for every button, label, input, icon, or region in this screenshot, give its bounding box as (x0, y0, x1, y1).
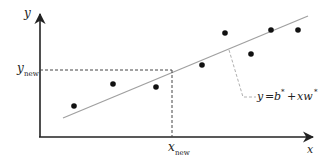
equation-label: y = b * + xw * (256, 88, 318, 103)
svg-text:y: y (16, 61, 24, 75)
regression-diagram: y x y new x new y = b * + xw * (0, 0, 327, 162)
y-axis-label: y (23, 6, 31, 20)
data-point (295, 27, 301, 33)
svg-text:new: new (175, 149, 190, 157)
svg-text:x: x (168, 140, 175, 154)
svg-text:b: b (274, 90, 281, 103)
svg-text:y: y (256, 90, 264, 103)
data-point (199, 62, 205, 68)
svg-text:+: + (287, 90, 296, 103)
data-point (153, 84, 159, 90)
svg-text:xw: xw (297, 90, 313, 103)
svg-text:=: = (265, 90, 274, 103)
x-new-label: x new (168, 140, 190, 157)
y-new-label: y new (16, 61, 39, 78)
data-point (71, 103, 77, 109)
data-point (222, 30, 228, 36)
equation-leader (229, 50, 256, 97)
data-point (110, 81, 116, 87)
svg-text:*: * (281, 88, 285, 96)
x-axis-label: x (307, 143, 314, 156)
data-point (248, 51, 254, 57)
svg-text:new: new (24, 70, 39, 78)
data-point (268, 27, 274, 33)
svg-text:*: * (314, 88, 318, 96)
